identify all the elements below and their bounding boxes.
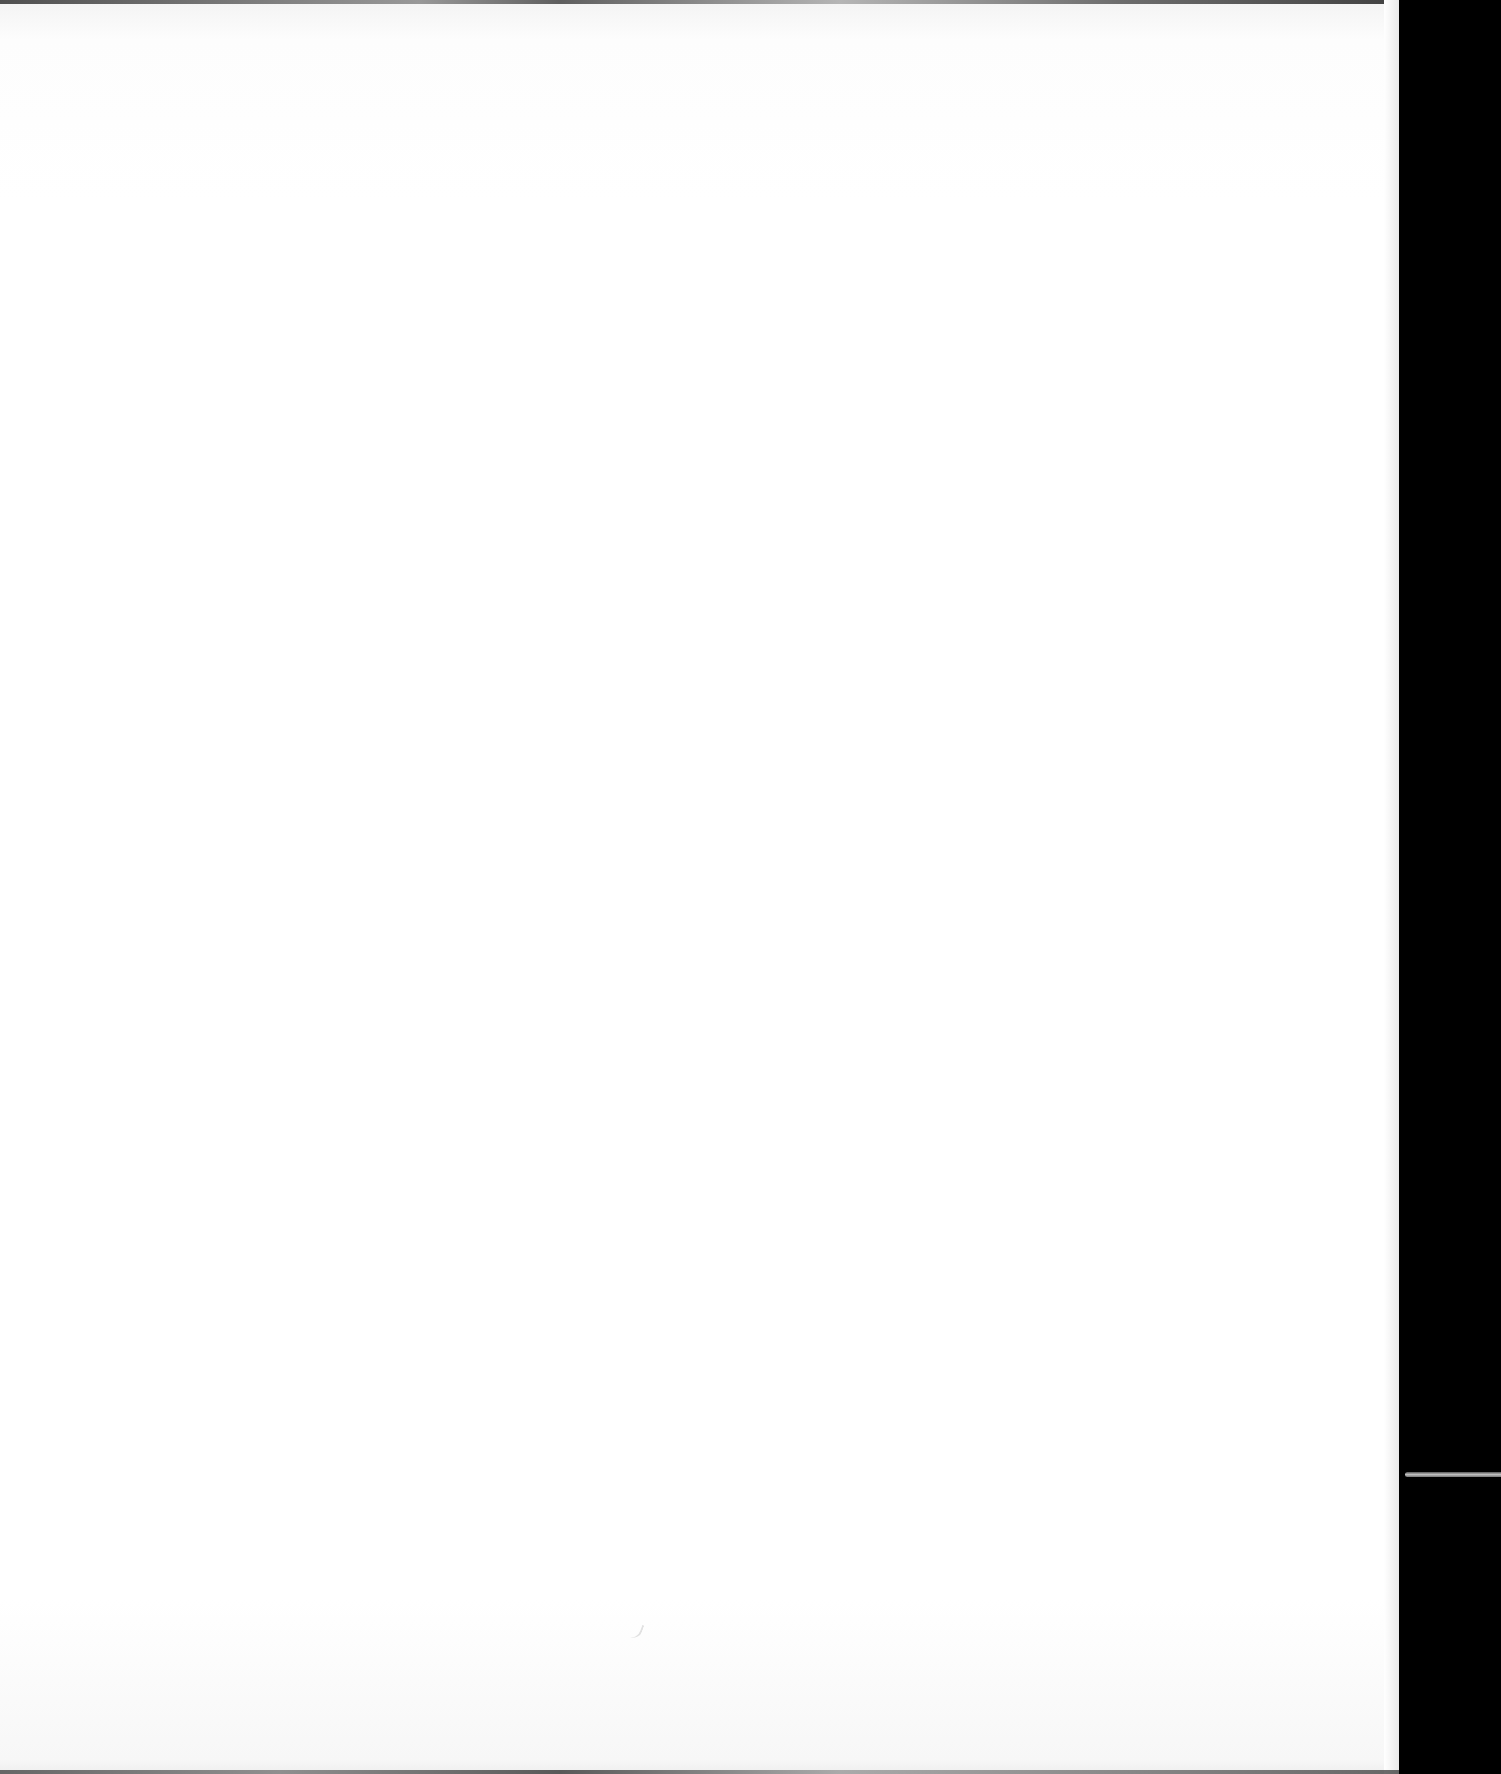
backdrop-edge-line: [1405, 1472, 1501, 1477]
page-right-edge: [1384, 0, 1399, 1774]
blank-scanned-page: [0, 0, 1399, 1774]
scanner-backdrop: [1399, 0, 1501, 1774]
page-top-edge-shadow: [0, 0, 1399, 4]
scan-artifact-mark: [628, 1621, 645, 1640]
page-bottom-edge-shadow: [0, 1770, 1399, 1774]
